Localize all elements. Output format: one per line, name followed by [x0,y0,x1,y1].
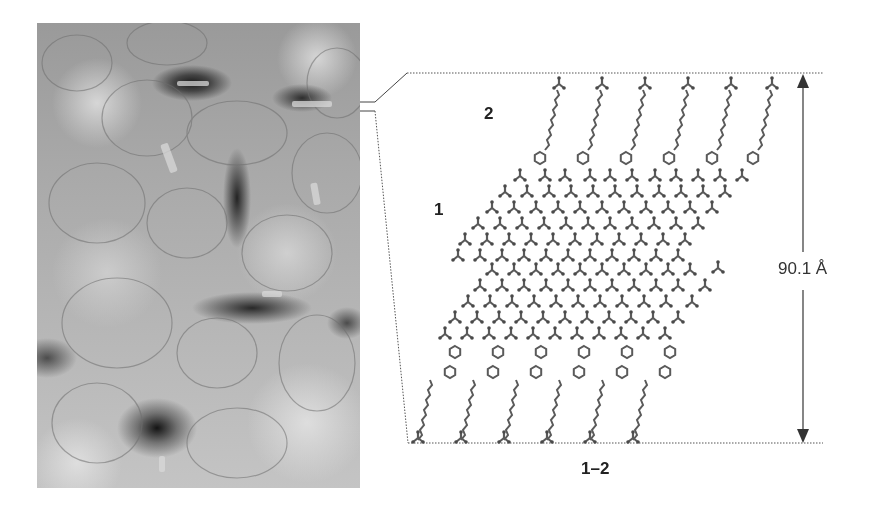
top-alkyl-chains [535,76,779,164]
lower-core-lattice [438,260,725,378]
upper-core-lattice [451,168,749,262]
bottom-alkyl-chains [411,380,647,444]
layer-2-label: 2 [484,104,493,124]
figure: 2 1 90.1 Å 1–2 [0,0,880,511]
dimension-label: 90.1 Å [778,259,827,279]
layer-1-label: 1 [434,200,443,220]
molecular-packing-model [411,76,779,444]
model-overlay [0,0,880,511]
model-caption: 1–2 [581,459,609,479]
